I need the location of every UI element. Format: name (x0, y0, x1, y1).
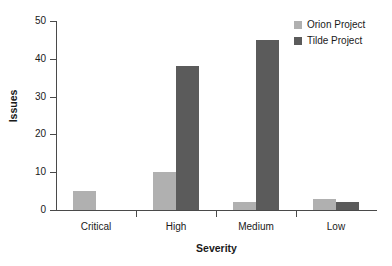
x-tick-mark (216, 211, 217, 217)
bar-chart: 01020304050 CriticalHighMediumLow Issues… (0, 0, 392, 266)
legend-item: Orion Project (294, 18, 365, 32)
x-tick-mark (296, 211, 297, 217)
y-tick-label: 50 (6, 16, 46, 26)
legend-item: Tilde Project (294, 34, 365, 48)
y-axis-title: Issues (7, 76, 19, 136)
x-tick-label: High (136, 221, 216, 233)
x-axis-title: Severity (56, 242, 377, 254)
bar (233, 202, 256, 210)
bar (313, 199, 336, 210)
bar (153, 172, 176, 210)
legend-label: Orion Project (307, 20, 365, 30)
y-tick-label: 10 (6, 167, 46, 177)
bar (256, 40, 279, 210)
bar (336, 202, 359, 210)
bar (176, 66, 199, 210)
legend-label: Tilde Project (307, 36, 362, 46)
y-tick-mark (50, 210, 56, 211)
y-tick-label: 40 (6, 54, 46, 64)
bar (73, 191, 96, 210)
y-tick-label: 0 (6, 205, 46, 215)
x-tick-label: Low (296, 221, 376, 233)
legend-swatch-icon (294, 37, 302, 45)
x-tick-mark (136, 211, 137, 217)
chart-legend: Orion ProjectTilde Project (294, 18, 365, 50)
x-tick-label: Medium (216, 221, 296, 233)
x-tick-label: Critical (56, 221, 136, 233)
legend-swatch-icon (294, 21, 302, 29)
